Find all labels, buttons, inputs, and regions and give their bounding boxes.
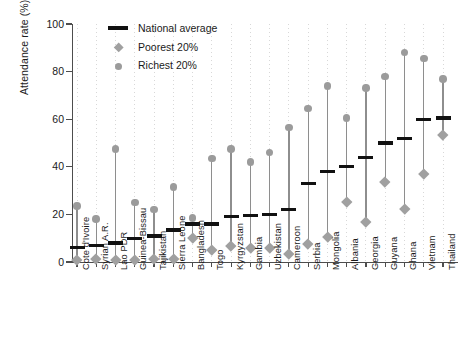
range-stem bbox=[134, 203, 135, 260]
x-tick bbox=[423, 262, 424, 267]
x-axis-label: Albania bbox=[350, 238, 360, 270]
richest-20-marker bbox=[247, 158, 255, 166]
richest-20-marker bbox=[420, 55, 428, 63]
national-average-marker bbox=[320, 170, 335, 173]
richest-20-marker bbox=[439, 75, 447, 83]
national-average-marker bbox=[436, 116, 451, 119]
x-axis-label: Syrian A.R. bbox=[100, 222, 110, 270]
range-stem bbox=[230, 149, 231, 245]
x-tick bbox=[365, 262, 366, 267]
richest-20-marker bbox=[324, 82, 332, 90]
y-tick bbox=[66, 214, 72, 215]
range-stem bbox=[327, 86, 328, 237]
x-tick bbox=[404, 262, 405, 267]
richest-20-marker bbox=[401, 49, 409, 57]
y-tick bbox=[66, 119, 72, 120]
y-tick bbox=[66, 23, 72, 24]
x-tick bbox=[308, 262, 309, 267]
y-axis-line bbox=[72, 24, 73, 262]
range-stem bbox=[442, 79, 443, 135]
national-average-marker bbox=[339, 165, 354, 168]
x-axis-label: Tajikistan bbox=[158, 231, 168, 270]
richest-20-marker bbox=[73, 202, 81, 210]
x-axis-label: Cameroon bbox=[292, 226, 302, 270]
y-tick bbox=[66, 71, 72, 72]
x-tick bbox=[250, 262, 251, 267]
national-average-marker bbox=[224, 215, 239, 218]
range-stem bbox=[385, 76, 386, 182]
y-tick-label: 80 bbox=[20, 66, 64, 77]
richest-20-marker bbox=[285, 124, 293, 132]
national-average-marker bbox=[243, 214, 258, 217]
national-average-swatch-icon bbox=[108, 26, 128, 30]
national-average-marker bbox=[301, 182, 316, 185]
range-stem bbox=[288, 128, 289, 254]
x-axis-label: Serbia bbox=[312, 243, 322, 270]
range-stem bbox=[308, 108, 309, 244]
x-axis-label: Sierra Leone bbox=[177, 216, 187, 270]
range-stem bbox=[423, 59, 424, 174]
legend-label: National average bbox=[138, 22, 217, 34]
x-axis-label: Georgia bbox=[370, 236, 380, 270]
x-tick bbox=[327, 262, 328, 267]
richest-20-marker bbox=[92, 215, 100, 223]
national-average-marker bbox=[397, 137, 412, 140]
range-stem bbox=[346, 118, 347, 201]
x-axis-label: Ghana bbox=[408, 242, 418, 270]
range-stem bbox=[173, 187, 174, 258]
x-axis-label: Cote d'Ivoire bbox=[81, 217, 91, 270]
poorest-20-marker bbox=[418, 169, 429, 180]
x-axis-label: Guyana bbox=[389, 237, 399, 270]
national-average-marker bbox=[204, 222, 219, 225]
national-average-marker bbox=[416, 118, 431, 121]
richest-circle-swatch-icon bbox=[115, 63, 122, 70]
national-average-marker bbox=[358, 156, 373, 159]
x-tick bbox=[346, 262, 347, 267]
richest-20-marker bbox=[381, 73, 389, 81]
y-tick-label: 60 bbox=[20, 114, 64, 125]
x-axis-label: Kyrgyzstan bbox=[235, 223, 245, 270]
x-axis-label: Mongolia bbox=[331, 231, 341, 270]
poorest-20-marker bbox=[380, 177, 391, 188]
richest-20-marker bbox=[362, 84, 370, 92]
richest-20-marker bbox=[170, 183, 178, 191]
x-axis-line bbox=[72, 262, 458, 263]
richest-20-marker bbox=[343, 114, 351, 122]
x-axis-label: Uzbekistan bbox=[273, 223, 283, 270]
richest-20-marker bbox=[266, 149, 274, 157]
legend-label: Richest 20% bbox=[138, 59, 197, 71]
richest-20-marker bbox=[304, 105, 312, 113]
x-tick bbox=[269, 262, 270, 267]
y-tick-label: 100 bbox=[20, 19, 64, 30]
range-stem bbox=[269, 153, 270, 248]
poorest-20-marker bbox=[361, 216, 372, 227]
x-tick bbox=[211, 262, 212, 267]
x-axis-label: Togo bbox=[215, 249, 225, 270]
national-average-marker bbox=[262, 213, 277, 216]
x-axis-label: Bangladesh bbox=[196, 220, 206, 270]
y-tick bbox=[66, 166, 72, 167]
x-tick bbox=[385, 262, 386, 267]
x-tick bbox=[231, 262, 232, 267]
y-tick-label: 0 bbox=[20, 257, 64, 268]
y-tick-label: 20 bbox=[20, 209, 64, 220]
richest-20-marker bbox=[131, 199, 139, 207]
poorest-20-marker bbox=[399, 203, 410, 214]
x-axis-label: Vietnam bbox=[427, 235, 437, 270]
poorest-20-marker bbox=[341, 196, 352, 207]
x-axis-label: Guinea-Bissau bbox=[138, 208, 148, 270]
richest-20-marker bbox=[208, 155, 216, 163]
x-axis-label: Thailand bbox=[447, 234, 457, 270]
x-tick bbox=[442, 262, 443, 267]
national-average-marker bbox=[281, 208, 296, 211]
range-stem bbox=[211, 158, 212, 250]
column-guide bbox=[443, 24, 444, 262]
poorest-20-marker bbox=[438, 129, 449, 140]
chart-container: Attendance rate (%) 020406080100 Cote d'… bbox=[0, 0, 466, 356]
richest-20-marker bbox=[112, 145, 120, 153]
x-tick bbox=[288, 262, 289, 267]
x-axis-label: Gambia bbox=[254, 237, 264, 270]
richest-20-marker bbox=[227, 145, 235, 153]
x-axis-label: Lao PDR bbox=[119, 232, 129, 270]
national-average-marker bbox=[378, 141, 393, 144]
